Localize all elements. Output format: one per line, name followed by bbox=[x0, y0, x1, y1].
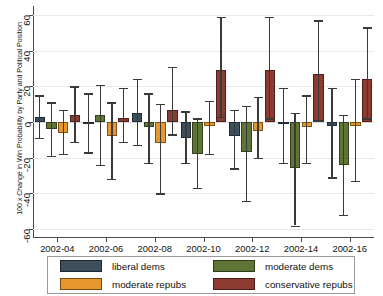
error-bar-cap-lower bbox=[133, 145, 142, 146]
error-bar-cap-upper bbox=[35, 95, 44, 96]
x-axis-tick bbox=[252, 238, 253, 242]
error-bar-cap-lower bbox=[96, 165, 105, 166]
error-bar-cap-upper bbox=[47, 102, 56, 103]
error-bar-line bbox=[74, 86, 75, 141]
error-bar-line bbox=[367, 27, 368, 118]
error-bar-cap-lower bbox=[265, 118, 274, 119]
error-bar-cap-lower bbox=[242, 201, 251, 202]
legend-swatch bbox=[213, 278, 255, 290]
error-bar-cap-upper bbox=[59, 110, 68, 111]
error-bar-line bbox=[318, 20, 319, 120]
error-bar-line bbox=[197, 118, 198, 188]
error-bar-cap-lower bbox=[193, 188, 202, 189]
error-bar-cap-upper bbox=[133, 79, 142, 80]
error-bar-cap-lower bbox=[254, 158, 263, 159]
x-axis-tick-label: 2002-04 bbox=[40, 243, 74, 254]
error-bar-cap-lower bbox=[84, 152, 93, 153]
error-bar-line bbox=[257, 97, 258, 158]
error-bar-cap-lower bbox=[107, 179, 116, 180]
gridline bbox=[33, 158, 374, 159]
error-bar-line bbox=[283, 88, 284, 163]
error-bar-line bbox=[343, 115, 344, 215]
error-bar-cap-lower bbox=[328, 177, 337, 178]
error-bar-line bbox=[269, 17, 270, 119]
error-bar-line bbox=[185, 111, 186, 163]
error-bar-cap-upper bbox=[217, 17, 226, 18]
error-bar-cap-lower bbox=[363, 118, 372, 119]
legend-item[interactable]: moderate repubs bbox=[48, 278, 201, 290]
error-bar-line bbox=[246, 106, 247, 201]
error-bar-cap-upper bbox=[84, 93, 93, 94]
error-bar-cap-upper bbox=[70, 86, 79, 87]
error-bar-cap-lower bbox=[217, 117, 226, 118]
error-bar-cap-lower bbox=[291, 226, 300, 227]
error-bar-cap-upper bbox=[339, 115, 348, 116]
error-bar-line bbox=[220, 17, 221, 117]
error-bar-line bbox=[88, 93, 89, 152]
chart-legend: liberal demsmoderate demsmoderate repubs… bbox=[47, 256, 355, 294]
legend-label: moderate dems bbox=[265, 261, 333, 272]
legend-item[interactable]: liberal dems bbox=[48, 260, 201, 272]
legend-swatch bbox=[60, 278, 102, 290]
plot-area: -60-40-2002040602002-042002-062002-08200… bbox=[33, 6, 374, 238]
error-bar-cap-upper bbox=[230, 110, 239, 111]
legend-swatch bbox=[60, 260, 102, 272]
x-axis-tick-label: 2002-16 bbox=[332, 243, 366, 254]
error-bar-cap-lower bbox=[302, 163, 311, 164]
error-bar-line bbox=[306, 95, 307, 163]
legend-item[interactable]: moderate dems bbox=[201, 260, 354, 272]
error-bar-cap-lower bbox=[59, 154, 68, 155]
error-bar-cap-lower bbox=[168, 134, 177, 135]
error-bar-cap-upper bbox=[193, 118, 202, 119]
error-bar-cap-upper bbox=[351, 79, 360, 80]
x-axis-tick-label: 2002-06 bbox=[89, 243, 123, 254]
error-bar-cap-upper bbox=[328, 88, 337, 89]
error-bar-cap-upper bbox=[107, 102, 116, 103]
error-bar-line bbox=[148, 93, 149, 163]
error-bar-cap-lower bbox=[279, 163, 288, 164]
error-bar-cap-upper bbox=[144, 93, 153, 94]
legend-item[interactable]: conservative repubs bbox=[201, 278, 354, 290]
error-bar-cap-upper bbox=[96, 85, 105, 86]
gridline bbox=[33, 51, 374, 52]
error-bar-cap-lower bbox=[181, 163, 190, 164]
error-bar-line bbox=[123, 88, 124, 142]
error-bar-cap-upper bbox=[168, 67, 177, 68]
x-axis-tick bbox=[106, 238, 107, 242]
x-axis-tick bbox=[301, 238, 302, 242]
error-bar-line bbox=[39, 95, 40, 138]
y-axis-tick-label-text: -60 bbox=[22, 229, 33, 243]
x-axis-tick-label: 2002-10 bbox=[186, 243, 220, 254]
legend-swatch bbox=[213, 260, 255, 272]
x-axis-tick bbox=[57, 238, 58, 242]
error-bar-line bbox=[100, 85, 101, 165]
error-bar-cap-upper bbox=[302, 95, 311, 96]
error-bar-cap-lower bbox=[156, 193, 165, 194]
legend-label: conservative repubs bbox=[265, 279, 353, 290]
error-bar-line bbox=[294, 113, 295, 225]
error-bar-cap-lower bbox=[205, 154, 214, 155]
error-bar-cap-lower bbox=[339, 215, 348, 216]
x-axis-tick bbox=[155, 238, 156, 242]
gridline bbox=[33, 229, 374, 230]
y-axis-tick-label-text: 60 bbox=[22, 15, 33, 26]
x-axis-tick bbox=[350, 238, 351, 242]
y-axis-tick-label-text: 40 bbox=[22, 51, 33, 62]
error-bar-cap-upper bbox=[181, 111, 190, 112]
error-bar-line bbox=[234, 110, 235, 169]
error-bar-cap-lower bbox=[70, 142, 79, 143]
x-axis-tick-label: 2002-12 bbox=[235, 243, 269, 254]
x-axis-tick bbox=[204, 238, 205, 242]
error-bar-cap-upper bbox=[242, 106, 251, 107]
error-bar-cap-upper bbox=[314, 20, 323, 21]
error-bar-line bbox=[63, 110, 64, 155]
error-bar-line bbox=[51, 102, 52, 156]
error-bar-line bbox=[137, 79, 138, 145]
gridline bbox=[33, 15, 374, 16]
error-bar-cap-lower bbox=[314, 120, 323, 121]
error-bar-line bbox=[111, 102, 112, 179]
error-bar-cap-lower bbox=[230, 168, 239, 169]
y-axis-tick-label-text: 0 bbox=[22, 122, 33, 127]
error-bar-line bbox=[160, 104, 161, 193]
error-bar-cap-upper bbox=[291, 113, 300, 114]
